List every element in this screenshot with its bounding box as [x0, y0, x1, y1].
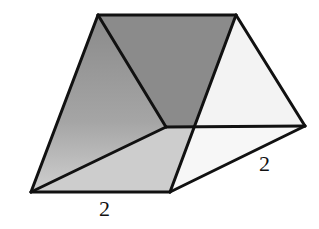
- label-bottom-length: 2: [99, 196, 110, 221]
- edge-back-bottom: [166, 126, 305, 127]
- prism-diagram: 2 2: [0, 0, 319, 229]
- label-right-length: 2: [259, 151, 270, 176]
